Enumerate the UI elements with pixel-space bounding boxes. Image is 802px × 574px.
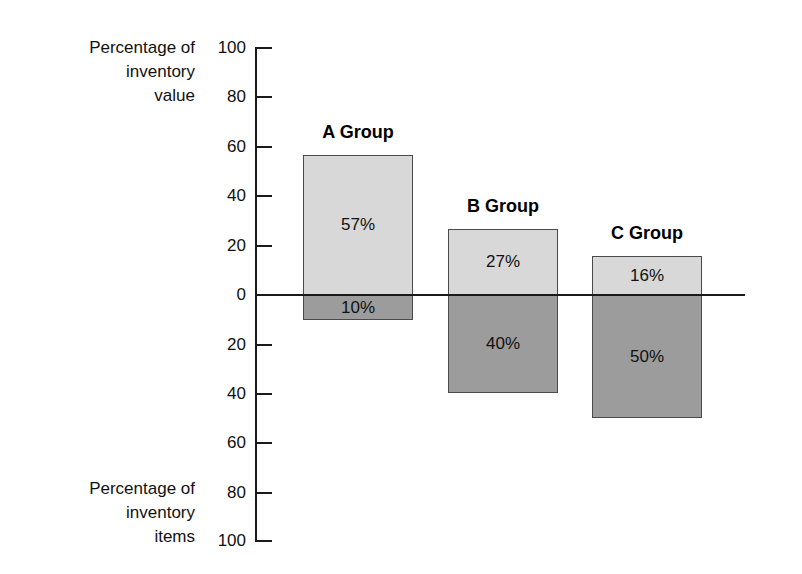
bar-b-items: 40%: [448, 295, 558, 393]
group-label-b: B Group: [448, 196, 558, 217]
group-label-a: A Group: [303, 122, 413, 143]
y-axis-tick: [255, 47, 272, 49]
bar-c-items-label: 50%: [630, 347, 664, 367]
bar-a-value: 57%: [303, 155, 413, 295]
bar-b-value: 27%: [448, 229, 558, 295]
zero-baseline: [255, 294, 745, 296]
y-axis-tick-label: 20: [196, 237, 246, 254]
y-axis-tick: [255, 146, 272, 148]
y-axis-tick-label: 40: [196, 187, 246, 204]
bar-a-value-label: 57%: [341, 215, 375, 235]
y-axis-tick: [255, 195, 272, 197]
y-axis-tick: [255, 393, 272, 395]
y-axis-tick-label: 60: [196, 138, 246, 155]
bar-c-items: 50%: [592, 295, 702, 418]
bar-a-items: 10%: [303, 295, 413, 320]
chart-canvas: Percentage of inventory value Percentage…: [0, 0, 802, 574]
y-axis-tick-label: 40: [196, 385, 246, 402]
y-axis-tick-label: 100: [196, 532, 246, 549]
bar-b-value-label: 27%: [486, 252, 520, 272]
y-axis-tick: [255, 245, 272, 247]
y-axis-tick: [255, 96, 272, 98]
bar-c-value-label: 16%: [630, 266, 664, 286]
y-axis-tick-label: 80: [196, 88, 246, 105]
y-axis-tick-label: 20: [196, 336, 246, 353]
bar-c-value: 16%: [592, 256, 702, 295]
y-axis-tick-label: 60: [196, 434, 246, 451]
axis-caption-value: Percentage of inventory value: [20, 36, 195, 108]
bar-a-items-label: 10%: [341, 298, 375, 318]
y-axis-tick-label: 80: [196, 484, 246, 501]
y-axis-tick: [255, 442, 272, 444]
bar-b-items-label: 40%: [486, 334, 520, 354]
group-label-c: C Group: [592, 223, 702, 244]
y-axis-tick-label: 100: [196, 39, 246, 56]
axis-caption-items: Percentage of inventory items: [20, 477, 195, 549]
y-axis-tick: [255, 344, 272, 346]
y-axis-tick-label: 0: [196, 286, 246, 303]
y-axis-tick: [255, 492, 272, 494]
y-axis-tick: [255, 540, 272, 542]
